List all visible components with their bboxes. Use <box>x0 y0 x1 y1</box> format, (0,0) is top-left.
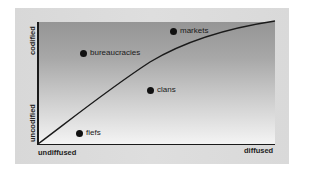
point-clans-dot <box>147 87 154 94</box>
point-fiefs-label: fiefs <box>86 128 101 137</box>
point-fiefs-dot <box>76 130 83 137</box>
point-bureaucracies-label: bureaucracies <box>90 48 140 57</box>
point-markets-dot <box>170 28 177 35</box>
x-axis <box>37 144 275 146</box>
y-axis-label-uncodified: uncodified <box>28 104 37 142</box>
x-axis-label-undiffused: undiffused <box>38 148 76 157</box>
point-clans-label: clans <box>157 85 176 94</box>
point-bureaucracies-dot <box>80 50 87 57</box>
point-markets-label: markets <box>180 26 208 35</box>
y-axis-label-codified: codified <box>28 26 37 55</box>
x-axis-label-diffused: diffused <box>244 146 273 155</box>
y-axis <box>37 22 39 145</box>
